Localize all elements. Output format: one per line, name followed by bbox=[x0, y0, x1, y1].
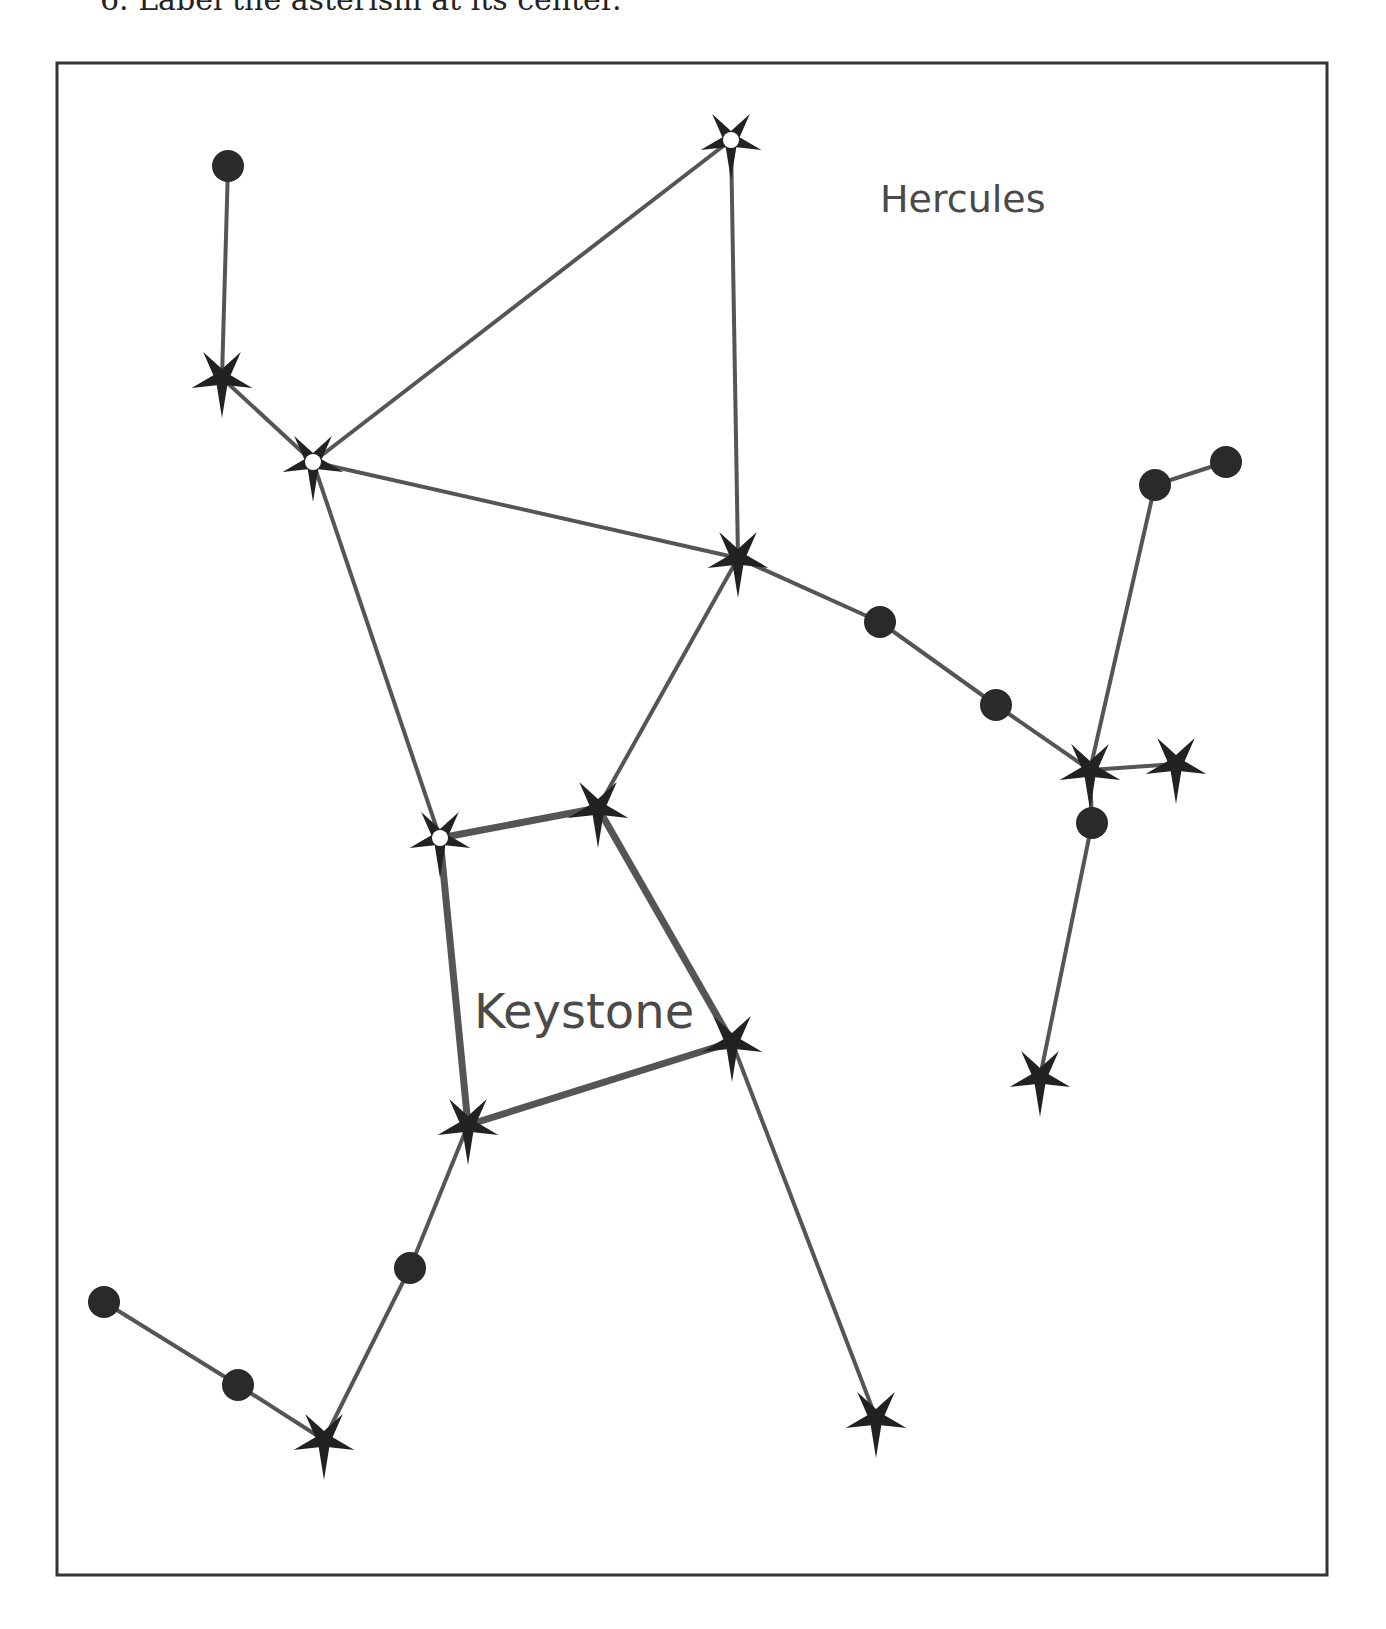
constellation-line bbox=[222, 378, 313, 462]
constellation-line bbox=[880, 622, 996, 705]
asterism-label-keystone: Keystone bbox=[474, 983, 694, 1039]
constellation-line bbox=[324, 1268, 410, 1440]
constellation-line bbox=[104, 1302, 238, 1385]
constellation-line bbox=[598, 558, 738, 808]
constellation-label-hercules: Hercules bbox=[880, 177, 1045, 221]
star-markers bbox=[88, 114, 1242, 1480]
star-chart: Hercules Keystone bbox=[0, 0, 1386, 1629]
star-icon bbox=[846, 1392, 907, 1458]
constellation-line bbox=[732, 1042, 876, 1418]
constellation-line bbox=[222, 166, 228, 378]
faint-star-dot bbox=[88, 1286, 120, 1318]
constellation-lines bbox=[104, 140, 1226, 1440]
constellation-line bbox=[996, 705, 1090, 770]
star-icon bbox=[702, 1016, 763, 1082]
faint-star-dot bbox=[212, 150, 244, 182]
constellation-line bbox=[410, 1125, 468, 1268]
faint-star-dot bbox=[980, 689, 1012, 721]
star-icon bbox=[294, 1414, 355, 1480]
faint-star-dot bbox=[1139, 469, 1171, 501]
star-icon bbox=[1010, 1051, 1071, 1117]
constellation-line bbox=[468, 1042, 732, 1125]
star-center-hole bbox=[305, 454, 321, 470]
constellation-line bbox=[313, 462, 738, 558]
faint-star-dot bbox=[1076, 807, 1108, 839]
constellation-line bbox=[313, 462, 440, 838]
constellation-line bbox=[440, 838, 468, 1125]
faint-star-dot bbox=[394, 1252, 426, 1284]
faint-star-dot bbox=[864, 606, 896, 638]
faint-star-dot bbox=[222, 1369, 254, 1401]
constellation-line bbox=[440, 808, 598, 838]
constellation-line bbox=[738, 558, 880, 622]
chart-frame bbox=[57, 63, 1327, 1575]
constellation-line bbox=[1040, 823, 1092, 1077]
star-icon bbox=[1146, 738, 1207, 804]
star-icon bbox=[568, 782, 629, 848]
constellation-line bbox=[313, 140, 731, 462]
constellation-line bbox=[731, 140, 738, 558]
constellation-line bbox=[1090, 485, 1155, 770]
star-center-hole bbox=[432, 830, 448, 846]
star-center-hole bbox=[723, 132, 739, 148]
faint-star-dot bbox=[1210, 446, 1242, 478]
